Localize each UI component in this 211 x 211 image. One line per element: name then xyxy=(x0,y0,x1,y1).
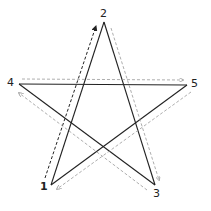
vertex-label-1: 1 xyxy=(40,181,48,192)
vertex-label-4: 4 xyxy=(7,77,14,88)
edge-3-4 xyxy=(19,84,155,185)
arrow-4-5 xyxy=(22,79,183,80)
star-lines xyxy=(19,22,187,185)
edge-2-3 xyxy=(104,22,155,185)
pentagram-diagram xyxy=(0,0,211,211)
direction-arrows xyxy=(19,26,191,190)
arrow-1-2 xyxy=(45,26,96,178)
vertex-label-2: 2 xyxy=(100,8,107,19)
vertex-label-5: 5 xyxy=(191,78,198,89)
vertex-label-3: 3 xyxy=(153,188,160,199)
arrow-3-4 xyxy=(19,93,147,190)
edge-4-5 xyxy=(19,84,187,85)
arrow-5-1 xyxy=(57,92,191,189)
